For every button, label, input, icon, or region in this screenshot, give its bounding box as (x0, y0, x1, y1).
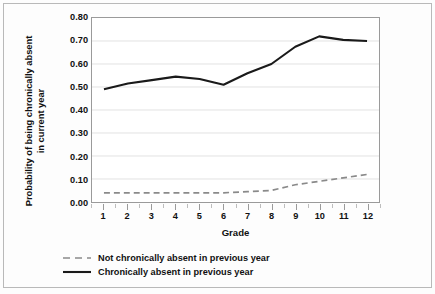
x-tick-minor (91, 204, 92, 208)
x-tick-major (175, 204, 176, 210)
legend-label-chronically-absent: Chronically absent in previous year (98, 267, 253, 277)
y-tick-label: 0.70 (56, 35, 88, 45)
x-tick-major (223, 204, 224, 210)
y-tick-label: 0.30 (56, 128, 88, 138)
legend-label-not-chronically-absent: Not chronically absent in previous year (98, 253, 270, 263)
series-line-2 (104, 36, 367, 89)
x-tick-major (320, 204, 321, 210)
x-tick-minor (236, 204, 237, 208)
x-tick-label: 6 (211, 211, 235, 221)
x-tick-minor (284, 204, 285, 208)
x-tick-major (344, 204, 345, 210)
legend-dashed-line-icon (62, 253, 92, 263)
x-tick-label: 3 (139, 211, 163, 221)
x-tick-major (151, 204, 152, 210)
x-axis-title: Grade (91, 227, 380, 238)
x-tick-minor (380, 204, 381, 208)
y-axis-tick-labels: 0.000.100.200.300.400.500.600.700.80 (56, 17, 88, 203)
x-tick-minor (139, 204, 140, 208)
y-tick-label: 0.40 (56, 105, 88, 115)
x-tick-minor (308, 204, 309, 208)
chart-legend: Not chronically absent in previous year … (62, 251, 392, 279)
y-axis-title: Probability of being chronically absent … (18, 16, 52, 226)
x-tick-major (199, 204, 200, 210)
x-tick-label: 4 (163, 211, 187, 221)
legend-item-not-chronically-absent: Not chronically absent in previous year (62, 251, 392, 265)
y-tick-label: 0.20 (56, 152, 88, 162)
y-axis-title-line-1: Probability of being chronically absent (23, 36, 35, 206)
x-tick-label: 1 (91, 211, 115, 221)
x-tick-major (296, 204, 297, 210)
x-tick-label: 9 (284, 211, 308, 221)
x-tick-label: 12 (356, 211, 380, 221)
x-tick-label: 11 (332, 211, 356, 221)
y-tick-label: 0.50 (56, 82, 88, 92)
series-line-1 (104, 174, 367, 192)
gridlines (92, 41, 379, 179)
x-tick-minor (332, 204, 333, 208)
x-tick-minor (356, 204, 357, 208)
x-tick-label: 5 (187, 211, 211, 221)
y-tick-label: 0.60 (56, 59, 88, 69)
x-axis-tick-labels: 123456789101112 (91, 211, 380, 225)
legend-solid-line-icon (62, 267, 92, 277)
x-tick-major (103, 204, 104, 210)
x-axis-tick-marks (91, 204, 380, 211)
x-tick-label: 7 (236, 211, 260, 221)
x-tick-label: 10 (308, 211, 332, 221)
y-tick-label: 0.10 (56, 175, 88, 185)
x-tick-major (127, 204, 128, 210)
x-tick-label: 2 (115, 211, 139, 221)
plot-svg (92, 18, 379, 202)
x-tick-minor (187, 204, 188, 208)
x-tick-major (248, 204, 249, 210)
x-tick-major (272, 204, 273, 210)
x-tick-major (368, 204, 369, 210)
x-tick-label: 8 (260, 211, 284, 221)
x-tick-minor (260, 204, 261, 208)
x-tick-minor (211, 204, 212, 208)
x-tick-minor (163, 204, 164, 208)
series-lines (104, 36, 367, 192)
y-tick-label: 0.00 (56, 198, 88, 208)
chart-figure: Probability of being chronically absent … (0, 0, 435, 294)
x-tick-minor (115, 204, 116, 208)
y-axis-title-line-2: in current year (35, 89, 47, 153)
plot-area (91, 17, 380, 203)
y-tick-label: 0.80 (56, 12, 88, 22)
legend-item-chronically-absent: Chronically absent in previous year (62, 265, 392, 279)
